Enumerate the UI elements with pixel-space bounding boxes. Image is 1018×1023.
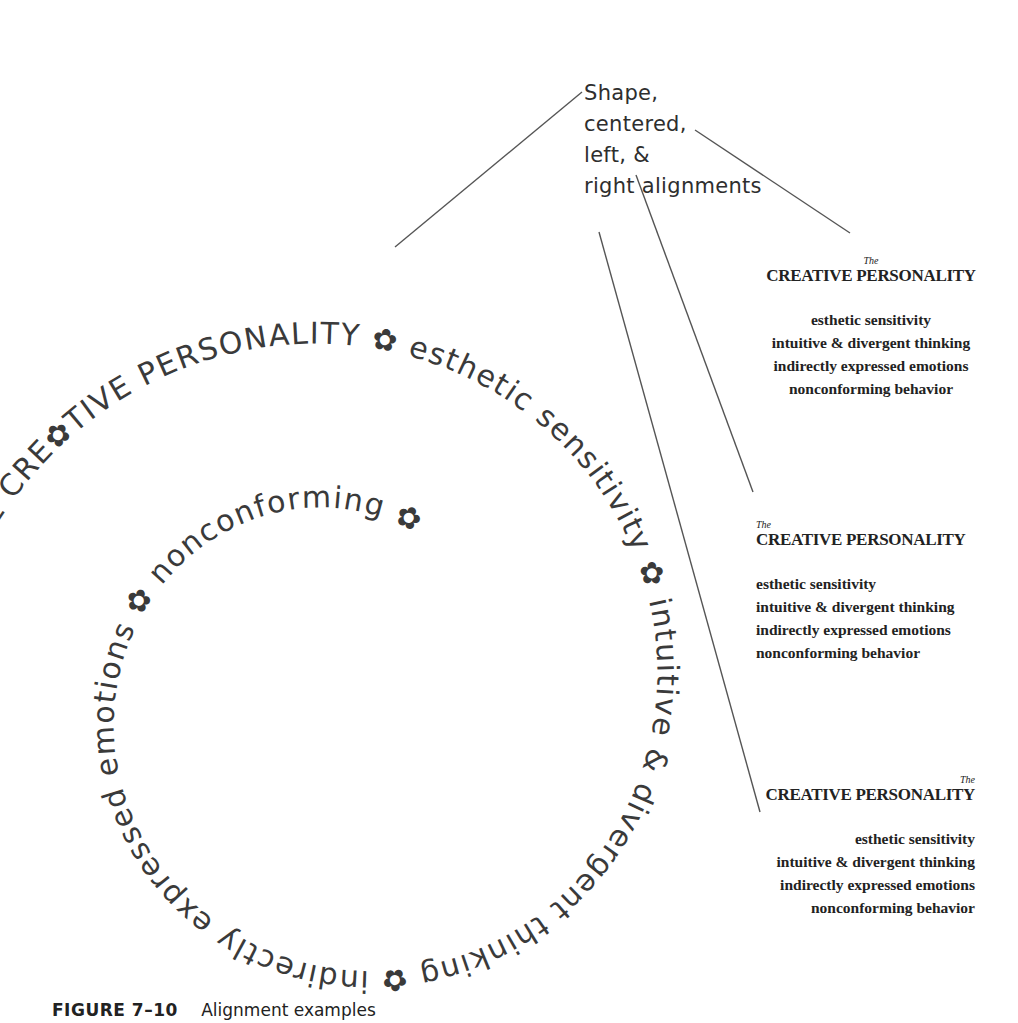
alignment-annotation: Shape, centered, left, & right alignment… xyxy=(584,78,762,202)
annotation-line: right alignments xyxy=(584,171,762,202)
example-lines: esthetic sensitivity intuitive & diverge… xyxy=(752,308,990,400)
example-the: The xyxy=(752,775,975,785)
example-line: esthetic sensitivity xyxy=(756,572,996,595)
spiral-textpath: THE CRE✿TIVE PERSONALITY ✿ esthetic sens… xyxy=(0,315,686,999)
example-line: esthetic sensitivity xyxy=(752,827,975,850)
example-line: nonconforming behavior xyxy=(752,377,990,400)
example-lines: esthetic sensitivity intuitive & diverge… xyxy=(756,572,996,664)
annotation-line: Shape, xyxy=(584,78,762,109)
example-title: CREATIVE PERSONALITY xyxy=(756,530,996,550)
example-line: indirectly expressed emotions xyxy=(752,354,990,377)
example-line: indirectly expressed emotions xyxy=(756,618,996,641)
example-line: nonconforming behavior xyxy=(752,896,975,919)
leader-line-left xyxy=(636,175,753,492)
annotation-line: centered, xyxy=(584,109,762,140)
leader-line-shape xyxy=(395,92,582,247)
example-line: esthetic sensitivity xyxy=(752,308,990,331)
example-line: intuitive & divergent thinking xyxy=(752,850,975,873)
example-lines: esthetic sensitivity intuitive & diverge… xyxy=(752,827,975,919)
example-centered: The CREATIVE PERSONALITY esthetic sensit… xyxy=(752,256,990,400)
example-title: CREATIVE PERSONALITY xyxy=(752,785,975,805)
figure-caption: FIGURE 7–10 Alignment examples xyxy=(52,1000,376,1020)
example-line: nonconforming behavior xyxy=(756,641,996,664)
example-the: The xyxy=(756,520,996,530)
figure-number: FIGURE 7–10 xyxy=(52,1000,178,1020)
example-left: The CREATIVE PERSONALITY esthetic sensit… xyxy=(756,520,996,664)
example-title: CREATIVE PERSONALITY xyxy=(752,266,990,286)
example-line: intuitive & divergent thinking xyxy=(752,331,990,354)
example-the: The xyxy=(752,256,990,266)
example-line: indirectly expressed emotions xyxy=(752,873,975,896)
example-right: The CREATIVE PERSONALITY esthetic sensit… xyxy=(752,775,975,919)
spiral-text: THE CRE✿TIVE PERSONALITY ✿ esthetic sens… xyxy=(0,315,686,999)
figure-caption-text: Alignment examples xyxy=(201,1000,376,1020)
annotation-line: left, & xyxy=(584,140,762,171)
example-line: intuitive & divergent thinking xyxy=(756,595,996,618)
